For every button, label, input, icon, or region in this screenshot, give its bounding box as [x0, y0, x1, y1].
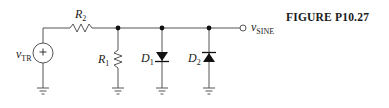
label-d1-symbol: D: [141, 51, 150, 65]
label-d2-symbol: D: [188, 51, 197, 65]
label-r2-subscript: 2: [82, 14, 86, 23]
label-r1: R1: [98, 53, 109, 68]
resistor-r2-icon: [70, 24, 92, 32]
figure-caption: FIGURE P10.27: [286, 11, 369, 23]
junction-node-icon: [116, 26, 121, 31]
label-vsine: vSINE: [251, 21, 274, 36]
ground-icon: [112, 88, 124, 94]
ground-icon: [203, 88, 215, 94]
diode-d1-icon: [155, 52, 169, 62]
label-vtr: vTR: [16, 48, 32, 63]
label-d2: D2: [188, 52, 201, 67]
diode-d2-icon: [202, 53, 216, 63]
label-r1-subscript: 1: [105, 59, 109, 68]
label-vsine-subscript: SINE: [256, 27, 274, 36]
junction-node-icon: [160, 26, 165, 31]
junction-node-icon: [207, 26, 212, 31]
label-d1: D1: [141, 52, 154, 67]
label-d1-subscript: 1: [150, 58, 154, 67]
ground-icon: [156, 88, 168, 94]
wire-r1: [114, 28, 122, 88]
wire-source-top: [43, 28, 70, 43]
output-terminal-icon: [240, 25, 246, 31]
label-r2: R2: [75, 8, 86, 23]
ground-icon: [37, 88, 49, 94]
label-d2-subscript: 2: [197, 58, 201, 67]
label-vtr-subscript: TR: [21, 54, 31, 63]
